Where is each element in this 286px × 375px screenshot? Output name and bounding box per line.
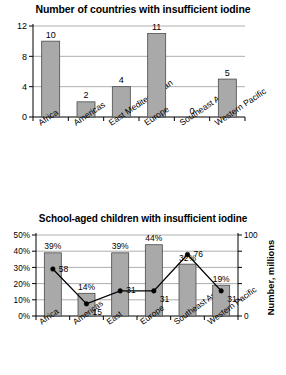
line-value-label-3: 31 <box>160 294 170 304</box>
y2-tick-label-100: 100 <box>244 231 258 240</box>
bar-value-label-2: 4 <box>119 75 124 85</box>
bar-value-label-0: 39% <box>44 241 61 251</box>
bar-value-label-0: 10 <box>46 30 56 40</box>
chart-top-canvas: 0481210Africa2Americas4East Mediterranea… <box>0 0 286 190</box>
y-tick-label-30: 30% <box>14 264 30 273</box>
line-value-label-5: 31 <box>227 294 237 304</box>
y-tick-label-20: 20% <box>14 280 30 289</box>
line-value-label-2: 31 <box>126 285 136 295</box>
bar-value-label-3: 44% <box>145 233 162 243</box>
chart-title-top: Number of countries with insufficient io… <box>0 3 286 15</box>
line-marker-1 <box>84 302 89 307</box>
y-tick-label-12: 12 <box>17 21 27 31</box>
y-tick-label-40: 40% <box>14 247 30 256</box>
chart-school-aged-children-insufficient-iodine: School-aged children with insufficient i… <box>0 185 286 375</box>
y-tick-label-8: 8 <box>22 52 27 62</box>
y2-tick-label-0: 0 <box>244 312 249 321</box>
bar-value-label-1: 14% <box>78 282 95 292</box>
line-marker-5 <box>219 289 224 294</box>
bar-value-label-3: 11 <box>152 22 161 32</box>
y-tick-label-50: 50% <box>14 231 30 240</box>
y-tick-label-10: 10% <box>14 296 30 305</box>
line-value-label-0: 58 <box>59 264 69 274</box>
line-marker-3 <box>152 289 157 294</box>
line-value-label-4: 76 <box>194 249 204 259</box>
chart-countries-insufficient-iodine: Number of countries with insufficient io… <box>0 0 286 190</box>
line-marker-4 <box>185 252 190 257</box>
y-tick-label-0: 0% <box>18 312 30 321</box>
bar-value-label-5: 5 <box>225 68 230 78</box>
y-tick-label-4: 4 <box>22 82 27 92</box>
line-marker-0 <box>51 267 56 272</box>
bar-value-label-2: 39% <box>112 241 129 251</box>
chart-title-bottom: School-aged children with insufficient i… <box>0 213 286 224</box>
line-marker-2 <box>118 289 123 294</box>
line-value-label-1: 15 <box>93 307 103 317</box>
bar-0 <box>42 41 60 117</box>
bar-value-label-1: 2 <box>83 90 88 100</box>
y2-axis-title: Number, millions <box>265 240 276 316</box>
y-tick-label-0: 0 <box>22 112 27 122</box>
y2-axis-title-group: Number, millions <box>265 240 276 316</box>
bar-value-label-5: 19% <box>213 274 230 284</box>
